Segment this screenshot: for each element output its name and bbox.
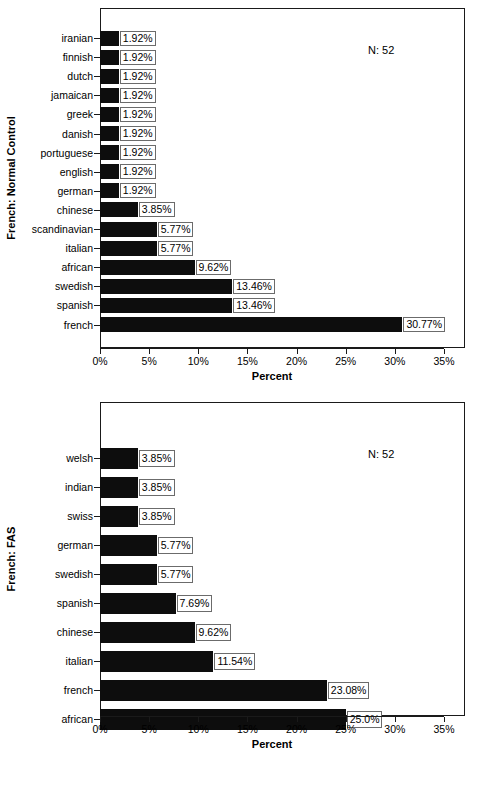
y-axis-tick bbox=[94, 325, 100, 326]
y-axis-tick bbox=[94, 38, 100, 39]
y-axis-title: French: FAS bbox=[0, 402, 22, 716]
y-axis-tick bbox=[94, 545, 100, 546]
x-axis-tick-label: 5% bbox=[129, 356, 169, 367]
y-axis-tick bbox=[94, 603, 100, 604]
x-axis-line bbox=[100, 348, 444, 349]
x-axis-tick bbox=[444, 717, 445, 722]
y-axis-tick bbox=[94, 76, 100, 77]
bar-value-label: 23.08% bbox=[328, 682, 370, 699]
y-axis-tick bbox=[94, 95, 100, 96]
y-axis-tick bbox=[94, 57, 100, 58]
y-axis-tick bbox=[94, 267, 100, 268]
y-axis-title-text: French: Normal Control bbox=[5, 116, 17, 239]
bar-value-label: 1.92% bbox=[120, 183, 156, 198]
bar bbox=[100, 202, 138, 217]
x-axis-tick bbox=[198, 349, 199, 354]
category-label: finnish bbox=[63, 52, 93, 63]
bar-value-label: 13.46% bbox=[233, 279, 275, 294]
bar bbox=[100, 477, 138, 498]
bar bbox=[100, 317, 402, 332]
x-axis-tick-label: 0% bbox=[80, 356, 120, 367]
bar-value-label: 1.92% bbox=[120, 50, 156, 65]
y-axis-tick bbox=[94, 458, 100, 459]
bar bbox=[100, 651, 213, 672]
sample-size-annotation: N: 52 bbox=[368, 448, 394, 460]
x-axis-tick-label: 35% bbox=[424, 356, 464, 367]
category-label: dutch bbox=[67, 71, 93, 82]
bar bbox=[100, 69, 119, 84]
category-label: german bbox=[57, 540, 93, 551]
bar bbox=[100, 622, 195, 643]
bar bbox=[100, 298, 232, 313]
x-axis-tick bbox=[346, 349, 347, 354]
x-axis-tick-label: 10% bbox=[178, 356, 218, 367]
category-label: italian bbox=[66, 656, 93, 667]
x-axis-tick-label: 15% bbox=[227, 356, 267, 367]
category-label: chinese bbox=[57, 627, 93, 638]
x-axis-tick-label: 25% bbox=[326, 724, 366, 735]
bar-value-label: 3.85% bbox=[139, 479, 175, 496]
x-axis-tick bbox=[149, 717, 150, 722]
bar bbox=[100, 448, 138, 469]
category-label: indian bbox=[65, 482, 93, 493]
category-label: portuguese bbox=[40, 148, 93, 159]
x-axis-tick bbox=[297, 717, 298, 722]
x-axis-tick-label: 5% bbox=[129, 724, 169, 735]
bar bbox=[100, 506, 138, 527]
x-axis-tick-label: 30% bbox=[375, 356, 415, 367]
x-axis-tick bbox=[346, 717, 347, 722]
sample-size-annotation: N: 52 bbox=[368, 44, 394, 56]
x-axis-tick bbox=[395, 349, 396, 354]
y-axis-tick bbox=[94, 632, 100, 633]
x-axis-tick bbox=[395, 717, 396, 722]
x-axis-tick bbox=[247, 349, 248, 354]
category-label: scandinavian bbox=[32, 224, 93, 235]
y-axis-tick bbox=[94, 210, 100, 211]
y-axis-tick bbox=[94, 286, 100, 287]
bar-value-label: 1.92% bbox=[120, 31, 156, 46]
x-axis-tick bbox=[247, 717, 248, 722]
y-axis-title: French: Normal Control bbox=[0, 8, 22, 348]
y-axis-tick bbox=[94, 114, 100, 115]
y-axis-tick bbox=[94, 574, 100, 575]
y-axis-title-text: French: FAS bbox=[5, 527, 17, 592]
x-axis-tick bbox=[100, 717, 101, 722]
category-label: welsh bbox=[66, 453, 93, 464]
bar-value-label: 1.92% bbox=[120, 126, 156, 141]
y-axis-tick bbox=[94, 305, 100, 306]
bar-value-label: 11.54% bbox=[214, 653, 255, 670]
x-axis-tick-label: 10% bbox=[178, 724, 218, 735]
x-axis-tick-label: 0% bbox=[80, 724, 120, 735]
bar-value-label: 5.77% bbox=[158, 222, 194, 237]
bar bbox=[100, 260, 195, 275]
x-axis-tick-label: 35% bbox=[424, 724, 464, 735]
bar bbox=[100, 535, 157, 556]
x-axis-line bbox=[100, 716, 444, 717]
y-axis-tick bbox=[94, 172, 100, 173]
bar bbox=[100, 241, 157, 256]
category-label: african bbox=[61, 714, 93, 725]
y-axis-tick bbox=[94, 229, 100, 230]
bar-value-label: 30.77% bbox=[403, 317, 445, 332]
category-label: french bbox=[64, 685, 93, 696]
bar-value-label: 5.77% bbox=[158, 566, 194, 583]
x-axis-tick bbox=[100, 349, 101, 354]
bar-value-label: 7.69% bbox=[177, 595, 213, 612]
category-label: greek bbox=[67, 109, 93, 120]
bar bbox=[100, 564, 157, 585]
x-axis-tick bbox=[444, 349, 445, 354]
bar bbox=[100, 50, 119, 65]
category-label: german bbox=[57, 186, 93, 197]
bar-value-label: 9.62% bbox=[196, 260, 232, 275]
category-label: french bbox=[64, 320, 93, 331]
x-axis-tick-label: 25% bbox=[326, 356, 366, 367]
y-axis-tick bbox=[94, 134, 100, 135]
category-label: spanish bbox=[57, 300, 93, 311]
category-label: danish bbox=[62, 129, 93, 140]
x-axis-tick-label: 15% bbox=[227, 724, 267, 735]
category-label: italian bbox=[66, 243, 93, 254]
bar-value-label: 13.46% bbox=[233, 298, 275, 313]
bar bbox=[100, 279, 232, 294]
x-axis-title: Percent bbox=[100, 738, 444, 750]
bar-value-label: 3.85% bbox=[139, 508, 175, 525]
